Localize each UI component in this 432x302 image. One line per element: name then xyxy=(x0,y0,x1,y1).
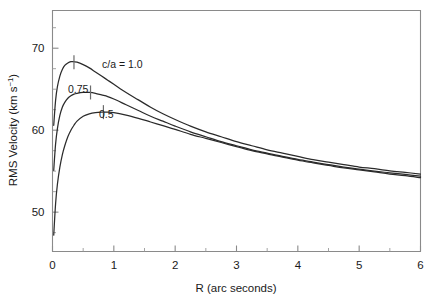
x-tick-label: 1 xyxy=(111,259,117,271)
x-tick-label: 5 xyxy=(356,259,362,271)
rms-velocity-line-chart: 0123456 506070 c/a = 1.0 0.75 0.5 R (arc… xyxy=(0,0,432,302)
y-axis-title-main: RMS Velocity (km s xyxy=(7,86,19,186)
y-tick-label: 50 xyxy=(32,206,45,218)
x-axis-tick-labels: 0123456 xyxy=(49,259,423,271)
axis-frame xyxy=(53,11,421,252)
y-axis-title: RMS Velocity (km s−1) xyxy=(6,74,19,187)
x-tick-label: 0 xyxy=(49,259,55,271)
curve-label-ca-0-5: 0.5 xyxy=(99,108,114,120)
y-axis-tick-labels: 506070 xyxy=(32,42,45,218)
x-tick-label: 4 xyxy=(295,259,302,271)
x-tick-label: 2 xyxy=(172,259,178,271)
curve-label-ca-1-0: c/a = 1.0 xyxy=(102,58,143,70)
curve-label-ca-0-75: 0.75 xyxy=(68,83,89,95)
y-axis-title-exponent: −1 xyxy=(6,78,15,87)
x-axis-major-ticks xyxy=(53,246,421,252)
data-curve xyxy=(54,92,421,176)
y-tick-label: 60 xyxy=(32,124,45,136)
y-axis-title-close: ) xyxy=(7,74,19,78)
x-tick-label: 3 xyxy=(233,259,239,271)
data-curve xyxy=(54,112,421,235)
chart-figure: 0123456 506070 c/a = 1.0 0.75 0.5 R (arc… xyxy=(0,0,432,302)
svg-text:RMS Velocity (km s−1): RMS Velocity (km s−1) xyxy=(6,74,19,187)
x-axis-title: R (arc seconds) xyxy=(195,282,276,294)
plot-frame xyxy=(53,11,421,252)
y-tick-label: 70 xyxy=(32,42,45,54)
x-tick-label: 6 xyxy=(417,259,423,271)
data-series-group xyxy=(54,62,421,235)
